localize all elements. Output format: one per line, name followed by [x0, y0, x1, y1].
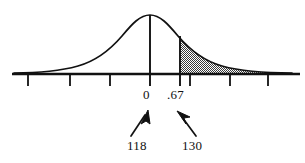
- axis-ticks: [28, 74, 268, 86]
- raw-score-label-score: 130: [182, 139, 202, 152]
- z-axis-label-mean: 0: [143, 88, 150, 101]
- arrow-to-z-score-graphic: [177, 111, 196, 136]
- raw-score-label-mean: 118: [127, 139, 147, 152]
- normal-curve-graphic: [0, 0, 305, 163]
- normal-distribution-figure: 0 .67 118 130: [0, 0, 305, 163]
- shaded-tail-region: [14, 15, 292, 74]
- bell-curve-outline: [14, 15, 292, 73]
- arrow-to-mean-graphic: [131, 110, 150, 136]
- z-axis-label-z-score: .67: [167, 88, 184, 101]
